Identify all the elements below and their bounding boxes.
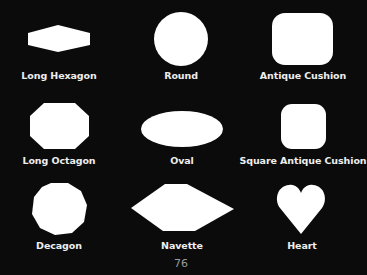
shape-label-navette: Navette	[161, 240, 203, 251]
shape-label-long-octagon: Long Octagon	[22, 155, 95, 166]
shape-label-square-antique-cushion: Square Antique Cushion	[240, 155, 367, 166]
heart-shape-icon	[277, 185, 325, 234]
shape-label-heart: Heart	[287, 240, 317, 251]
square-antique-cushion-shape-icon	[281, 104, 326, 149]
shape-label-long-hexagon: Long Hexagon	[21, 70, 96, 81]
shape-label-round: Round	[164, 70, 198, 81]
page-number: 76	[174, 257, 188, 270]
round-shape-icon	[154, 12, 208, 66]
decagon-shape-icon	[32, 183, 87, 235]
navette-shape-icon	[131, 184, 234, 231]
oval-shape-icon	[141, 111, 223, 147]
long-octagon-shape-icon	[30, 103, 89, 149]
shape-label-oval: Oval	[170, 155, 194, 166]
shape-label-antique-cushion: Antique Cushion	[260, 70, 346, 81]
antique-cushion-shape-icon	[272, 13, 333, 65]
long-hexagon-shape-icon	[28, 25, 90, 52]
shape-label-decagon: Decagon	[36, 240, 82, 251]
